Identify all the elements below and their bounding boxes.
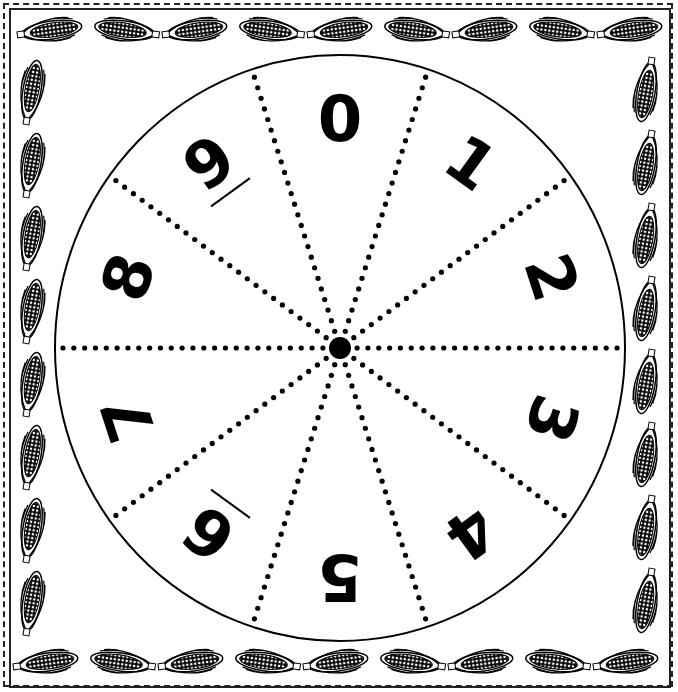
corn-icon xyxy=(15,423,49,491)
corn-icon xyxy=(306,15,374,46)
spinner-number-5: 5 xyxy=(318,540,363,614)
corn-icon xyxy=(238,15,306,46)
corn-icon xyxy=(93,15,161,46)
corn-icon xyxy=(89,647,157,678)
svg-text:5: 5 xyxy=(318,540,363,614)
corn-icon xyxy=(630,275,664,343)
corn-icon xyxy=(15,350,49,418)
corn-icon xyxy=(234,647,302,678)
corn-icon xyxy=(157,647,225,678)
corn-icon xyxy=(630,567,664,635)
corn-icon xyxy=(383,15,451,46)
spinner-number-0: 0 xyxy=(318,82,363,156)
corn-icon xyxy=(524,647,592,678)
corn-icon xyxy=(161,15,229,46)
corn-icon xyxy=(630,421,664,489)
spinner-center-dot[interactable] xyxy=(329,337,351,359)
corn-icon xyxy=(630,348,664,416)
corn-icon xyxy=(630,129,664,197)
corn-icon xyxy=(15,58,49,126)
corn-icon xyxy=(15,496,49,564)
corn-icon xyxy=(302,647,370,678)
corn-icon xyxy=(592,647,660,678)
spinner-sheet: 0123456789 xyxy=(0,0,678,692)
corn-icon xyxy=(15,131,49,199)
corn-icon xyxy=(630,56,664,124)
corn-icon xyxy=(16,15,84,46)
corn-icon xyxy=(528,15,596,46)
svg-text:0: 0 xyxy=(318,82,363,156)
corn-icon xyxy=(15,569,49,637)
corn-icon xyxy=(15,204,49,272)
corn-icon xyxy=(630,494,664,562)
corn-icon xyxy=(15,277,49,345)
corn-icon xyxy=(451,15,519,46)
corn-icon xyxy=(596,15,664,46)
corn-icon xyxy=(447,647,515,678)
corn-icon xyxy=(630,202,664,270)
corn-icon xyxy=(12,647,80,678)
corn-icon xyxy=(379,647,447,678)
